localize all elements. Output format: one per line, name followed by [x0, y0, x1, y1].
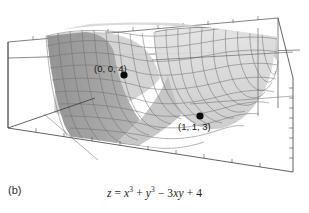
local-minimum-marker	[196, 112, 203, 119]
surface-plot-canvas	[0, 0, 309, 213]
saddle-point-marker	[120, 71, 127, 78]
surface-geometry	[46, 22, 278, 161]
axis-ticks-right-vertical	[289, 88, 293, 158]
figure-3d-surface-plot: (0, 0, 4) (1, 1, 3) (b) z = x3 + y3 − 3x…	[0, 0, 309, 213]
